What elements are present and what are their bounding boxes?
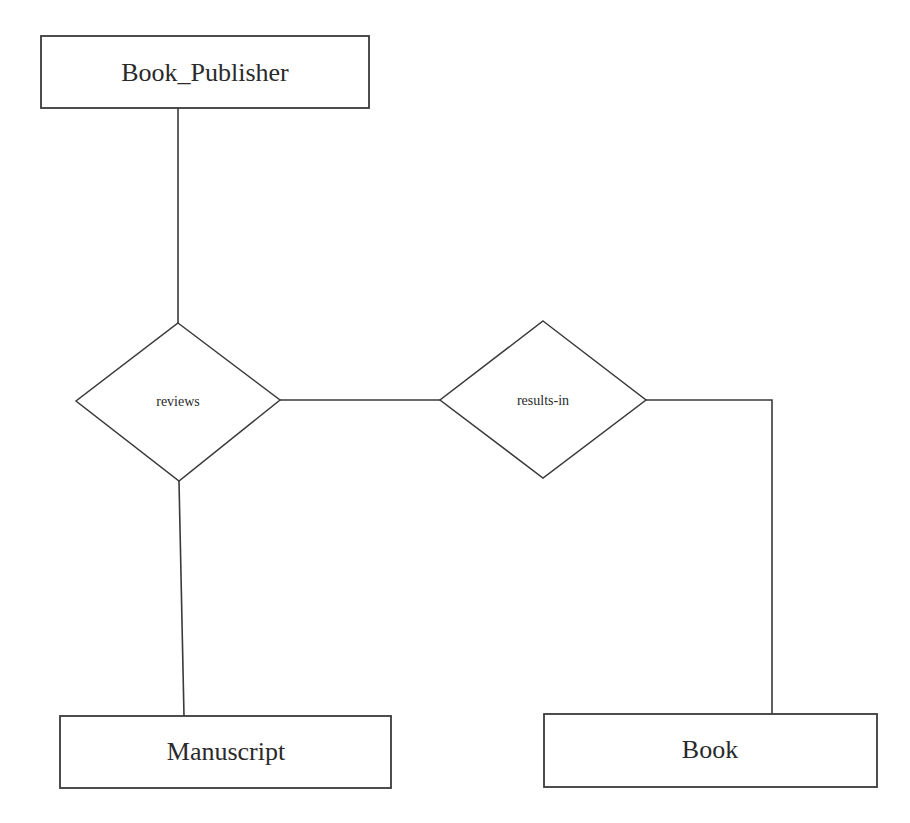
entity-label: Book bbox=[682, 735, 738, 764]
relationship-label: results-in bbox=[517, 393, 569, 408]
er-diagram-canvas: Book_Publisher reviews results-in Manusc… bbox=[0, 0, 910, 823]
relationship-reviews[interactable]: reviews bbox=[76, 323, 280, 481]
connector-results-in-book bbox=[646, 400, 772, 714]
entity-label: Manuscript bbox=[167, 737, 286, 766]
connector-reviews-manuscript bbox=[179, 481, 184, 716]
relationship-results-in[interactable]: results-in bbox=[440, 321, 646, 478]
relationship-label: reviews bbox=[156, 394, 200, 409]
entity-book-publisher[interactable]: Book_Publisher bbox=[41, 36, 369, 108]
entity-manuscript[interactable]: Manuscript bbox=[60, 716, 391, 788]
entity-label: Book_Publisher bbox=[121, 58, 289, 87]
entity-book[interactable]: Book bbox=[544, 714, 877, 787]
